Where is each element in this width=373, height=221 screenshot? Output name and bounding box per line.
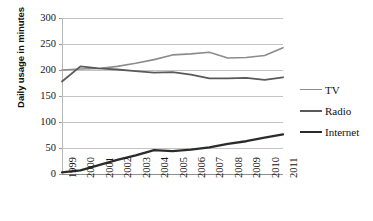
x-tick-label: 2010 (259, 176, 273, 216)
legend-label: Radio (325, 105, 351, 117)
legend-label: Internet (325, 126, 359, 138)
legend-swatch-internet (300, 131, 322, 133)
x-tick-label: 1999 (56, 176, 70, 216)
x-tick-label: 2002 (111, 176, 125, 216)
x-tick-label: 2007 (203, 176, 217, 216)
y-tick-mark (59, 174, 62, 175)
y-tick-label: 50 (22, 143, 56, 154)
x-tick-label: 2009 (240, 176, 254, 216)
y-tick-label: 300 (22, 13, 56, 24)
series-line-radio (62, 66, 283, 81)
line-chart: Daily usage in minutes 05010015020025030… (0, 0, 373, 221)
legend-label: TV (325, 84, 340, 96)
x-tick-label: 2000 (74, 176, 88, 216)
x-tick-label: 2005 (167, 176, 181, 216)
x-tick-label: 2003 (130, 176, 144, 216)
legend: TVRadioInternet (300, 79, 373, 142)
plot-area (62, 18, 283, 174)
x-axis-tick-labels: 1999200020012002200320042005200620072008… (62, 176, 283, 221)
x-tick-label: 2008 (222, 176, 236, 216)
y-tick-label: 150 (22, 91, 56, 102)
x-tick-label: 2011 (277, 176, 291, 216)
y-tick-label: 100 (22, 117, 56, 128)
legend-swatch-radio (300, 110, 322, 112)
series-layer (62, 18, 283, 174)
legend-item-tv[interactable]: TV (300, 79, 373, 100)
y-axis-tick-labels: 050100150200250300 (22, 0, 56, 221)
x-tick-label: 2004 (148, 176, 162, 216)
y-tick-label: 250 (22, 39, 56, 50)
legend-item-radio[interactable]: Radio (300, 100, 373, 121)
series-line-tv (62, 48, 283, 70)
legend-swatch-tv (300, 89, 322, 90)
x-tick-label: 2001 (93, 176, 107, 216)
legend-item-internet[interactable]: Internet (300, 121, 373, 142)
y-tick-label: 200 (22, 65, 56, 76)
x-tick-label: 2006 (185, 176, 199, 216)
y-tick-label: 0 (22, 169, 56, 180)
